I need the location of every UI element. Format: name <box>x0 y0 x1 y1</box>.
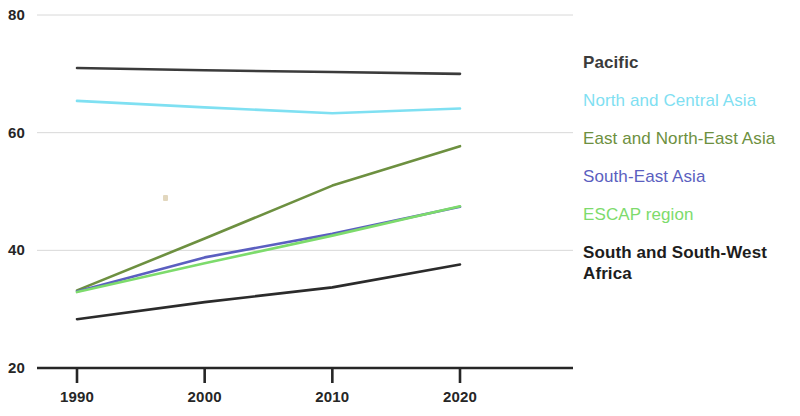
legend-item[interactable]: East and North-East Asia <box>583 128 795 149</box>
x-axis-tick-label: 1990 <box>37 388 117 405</box>
x-axis-tick-label: 2020 <box>420 388 500 405</box>
stray-mark-artifact <box>163 195 168 201</box>
y-axis-tick-label: 80 <box>8 6 25 23</box>
line-chart: 20406080 1990200020102020 PacificNorth a… <box>0 0 800 416</box>
x-axis-tick-label: 2000 <box>165 388 245 405</box>
x-axis-tick-label: 2010 <box>292 388 372 405</box>
legend-item[interactable]: South-East Asia <box>583 166 795 187</box>
legend-item[interactable]: Pacific <box>583 52 795 73</box>
series-line <box>77 68 460 74</box>
y-axis-tick-label: 20 <box>8 359 25 376</box>
legend-item[interactable]: ESCAP region <box>583 204 795 225</box>
series-lines <box>77 68 460 319</box>
y-axis-tick-label: 40 <box>8 241 25 258</box>
chart-legend: PacificNorth and Central AsiaEast and No… <box>583 52 795 301</box>
series-line <box>77 101 460 113</box>
legend-item[interactable]: South and South-West Africa <box>583 242 795 284</box>
x-axis-ticks <box>77 368 460 383</box>
series-line <box>77 206 460 292</box>
series-line <box>77 264 460 319</box>
y-axis-tick-label: 60 <box>8 124 25 141</box>
gridlines <box>37 15 573 250</box>
legend-item[interactable]: North and Central Asia <box>583 90 795 111</box>
